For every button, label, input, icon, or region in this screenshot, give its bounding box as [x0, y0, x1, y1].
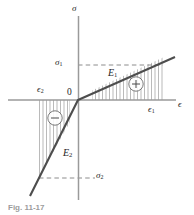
sigma1-label: σ1 [55, 58, 62, 68]
epsilon1-subscript: 1 [152, 108, 155, 114]
modulus-e1-subscript: 1 [114, 71, 117, 78]
epsilon1-label: ϵ1 [148, 105, 155, 115]
positive-area-marker [129, 77, 143, 91]
epsilon2-subscript: 2 [41, 88, 44, 94]
stress-strain-figure: σ ϵ 0 σ1 σ2 ϵ1 ϵ2 E1 E2 Fig. 11-17 [0, 0, 194, 215]
epsilon-axis-label: ϵ [178, 100, 182, 109]
sigma2-subscript: 2 [100, 174, 103, 180]
epsilon2-label: ϵ2 [37, 85, 44, 95]
negative-area-marker [48, 111, 62, 125]
negative-hatch-region [40, 95, 71, 185]
figure-caption: Fig. 11-17 [8, 203, 100, 214]
stress-strain-plot [0, 0, 194, 215]
sigma2-label: σ2 [96, 171, 103, 181]
origin-label: 0 [67, 88, 72, 98]
modulus-e2-subscript: 2 [69, 151, 72, 158]
modulus-e2-label: E2 [63, 148, 72, 159]
sigma-axis-label: σ [72, 4, 76, 13]
modulus-e1-label: E1 [108, 68, 117, 79]
sigma1-subscript: 1 [59, 61, 62, 67]
